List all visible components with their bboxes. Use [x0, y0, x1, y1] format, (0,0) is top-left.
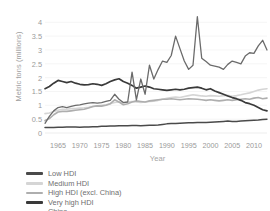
y-tick-label: 0.5: [22, 115, 42, 124]
legend-item-label: Very high HDI: [48, 198, 94, 208]
x-tick-label: 1985: [137, 141, 153, 150]
legend-swatch: [26, 172, 43, 175]
legend-item[interactable]: China: [26, 207, 226, 211]
y-tick-label: 1: [22, 101, 42, 110]
x-tick-label: 2000: [202, 141, 218, 150]
legend-swatch: [26, 182, 43, 185]
chart-figure: Metric tons (millions) 43.532.521.510.50…: [0, 0, 270, 211]
y-tick-label: 0: [22, 129, 42, 138]
y-tick-label: 2.5: [22, 59, 42, 68]
legend-swatch: [26, 192, 43, 195]
chart-legend: Low HDIMedium HDIHigh HDI (excl. China)V…: [26, 169, 226, 211]
x-tick-label: 1975: [94, 141, 110, 150]
series-line: [45, 17, 267, 124]
legend-item-label: Medium HDI: [48, 179, 89, 189]
legend-item[interactable]: Medium HDI: [26, 179, 226, 189]
x-tick-label: 2005: [224, 141, 240, 150]
legend-swatch: [26, 201, 43, 204]
x-tick-label: 1995: [181, 141, 197, 150]
series-line: [45, 79, 267, 111]
legend-item-label: Low HDI: [48, 169, 76, 179]
plot-svg: [45, 14, 267, 133]
series-line: [45, 119, 267, 127]
x-tick-label: 2010: [246, 141, 262, 150]
y-tick-label: 2: [22, 73, 42, 82]
legend-item[interactable]: Low HDI: [26, 169, 226, 179]
x-axis-title: Year: [45, 154, 270, 163]
y-tick-label: 4: [22, 18, 42, 27]
x-tick-label: 1980: [115, 141, 131, 150]
legend-item-label: China: [48, 207, 67, 211]
plot-area: [45, 14, 267, 133]
y-tick-label: 1.5: [22, 87, 42, 96]
legend-item[interactable]: High HDI (excl. China): [26, 188, 226, 198]
legend-item-label: High HDI (excl. China): [48, 188, 122, 198]
x-tick-label: 1990: [159, 141, 175, 150]
x-axis-tick-labels: 1965197019751980198519901995200020052010: [0, 141, 270, 153]
x-tick-label: 1965: [50, 141, 66, 150]
legend-item[interactable]: Very high HDI: [26, 198, 226, 208]
y-tick-label: 3: [22, 45, 42, 54]
x-tick-label: 1970: [72, 141, 88, 150]
y-tick-label: 3.5: [22, 32, 42, 41]
